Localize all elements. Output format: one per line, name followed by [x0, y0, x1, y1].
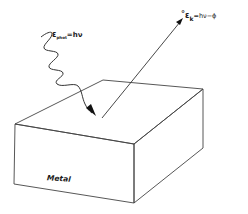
metal-block-front-face	[14, 124, 134, 203]
electron-energy-equation: =hν−ϕ	[193, 12, 216, 20]
electron-arrow	[102, 22, 180, 118]
photon-energy-label: εphot=hν	[52, 30, 83, 40]
metal-block-side-face	[134, 89, 203, 203]
photon-energy-equation: =hν	[67, 31, 83, 39]
electron-arrowhead-icon	[176, 18, 183, 25]
metal-label: Metal	[47, 173, 72, 184]
metal-block	[14, 80, 203, 203]
photon-arrowhead-icon	[86, 104, 96, 116]
photon-energy-subscript: phot	[56, 35, 66, 40]
photoelectric-diagram: εphot=hν °εk=hν−ϕ Metal	[0, 0, 248, 214]
photon-wave	[41, 32, 92, 113]
electron-energy-label: °εk=hν−ϕ	[181, 10, 216, 22]
